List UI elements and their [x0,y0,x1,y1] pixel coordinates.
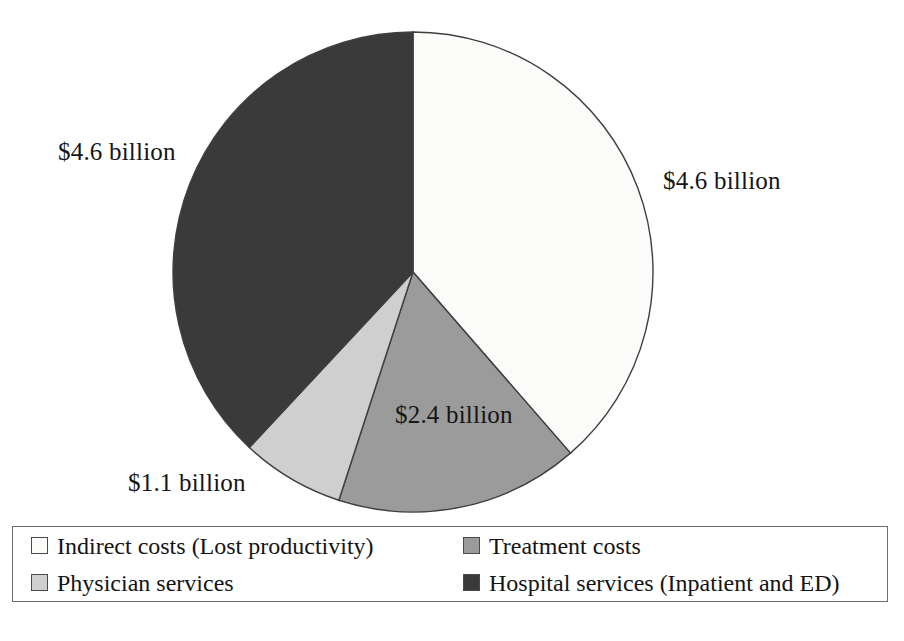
legend-label-indirect-costs: Indirect costs (Lost productivity) [57,532,374,560]
pie-chart: $4.6 billion $4.6 billion $1.1 billion $… [0,0,904,641]
legend-swatch-indirect-costs [31,537,48,554]
legend-item-hospital-services: Hospital services (Inpatient and ED) [463,569,904,597]
legend: Indirect costs (Lost productivity) Treat… [12,526,888,602]
legend-swatch-hospital-services [463,574,480,591]
legend-label-physician-services: Physician services [57,569,234,597]
legend-label-hospital-services: Hospital services (Inpatient and ED) [489,569,840,597]
legend-item-indirect-costs: Indirect costs (Lost productivity) [31,532,463,560]
legend-item-treatment-costs: Treatment costs [463,532,904,560]
pie-svg [172,30,654,514]
pie-graphic [172,30,654,514]
slice-label-hospital-services: $4.6 billion [58,137,176,167]
slice-label-physician-services: $1.1 billion [128,468,246,498]
slice-label-treatment-costs: $2.4 billion [395,400,513,430]
legend-swatch-treatment-costs [463,537,480,554]
legend-swatch-physician-services [31,574,48,591]
legend-label-treatment-costs: Treatment costs [489,532,641,560]
legend-item-physician-services: Physician services [31,569,463,597]
slice-label-indirect-costs: $4.6 billion [663,166,781,196]
